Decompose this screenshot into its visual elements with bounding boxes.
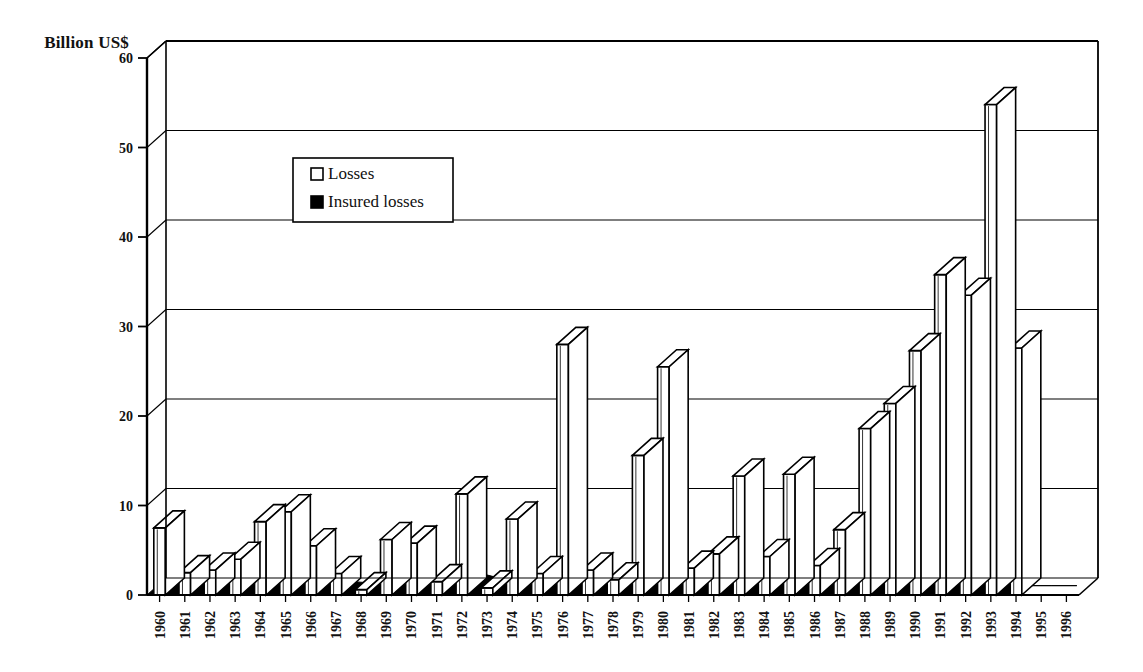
x-axis-tick-label: 1974: [505, 611, 520, 639]
x-axis-tick-label: 1979: [631, 611, 646, 639]
x-axis-tick-label: 1966: [304, 611, 319, 639]
x-axis-tick-label: 1962: [203, 611, 218, 639]
x-axis-tick-label: 1985: [782, 611, 797, 639]
x-axis-tick-label: 1984: [757, 611, 772, 639]
x-axis-tick-label: 1988: [858, 611, 873, 639]
x-axis-tick-label: 1989: [883, 611, 898, 639]
x-axis-tick-label: 1963: [228, 611, 243, 639]
x-axis-tick-label: 1980: [656, 611, 671, 639]
x-axis-tick-label: 1982: [707, 611, 722, 639]
chart-canvas: 6050403020100196019611962196319641965196…: [0, 0, 1143, 672]
x-axis-tick-label: 1969: [379, 611, 394, 639]
legend-item-label: Losses: [328, 164, 374, 183]
x-axis-tick-label: 1995: [1034, 611, 1049, 639]
insured-losses-swatch-icon: [311, 196, 323, 208]
bar-column: [154, 511, 185, 595]
x-axis-tick-label: 1971: [430, 611, 445, 639]
y-axis-tick-label: 20: [119, 409, 133, 424]
x-axis-tick-label: 1996: [1059, 611, 1074, 639]
legend-item-label: Insured losses: [328, 192, 424, 211]
x-axis-tick-label: 1994: [1009, 611, 1024, 639]
x-axis-tick-label: 1993: [984, 611, 999, 639]
legend-item[interactable]: Insured losses: [311, 192, 424, 211]
bar-column: [506, 502, 537, 595]
axis-title-layer: Billion US$: [44, 33, 129, 52]
y-axis-tick-label: 40: [119, 230, 133, 245]
y-axis-tick-label: 10: [119, 499, 133, 514]
y-axis-tick-label: 30: [119, 320, 133, 335]
chart-legend: LossesInsured losses: [293, 158, 453, 222]
x-axis-tick-label: 1976: [556, 611, 571, 639]
x-axis-tick-label: 1981: [682, 611, 697, 639]
x-axis-tick-label: 1978: [606, 611, 621, 639]
x-axis-tick-label: 1965: [279, 611, 294, 639]
x-axis-tick-label: 1967: [329, 611, 344, 639]
bar-column: [557, 327, 588, 595]
losses-swatch-icon: [311, 168, 323, 180]
x-axis-tick-label: 1975: [530, 611, 545, 639]
y-axis-tick-label: 60: [119, 51, 133, 66]
x-axis-tick-label: 1961: [178, 611, 193, 639]
y-axis-tick-label: 50: [119, 141, 133, 156]
x-axis-tick-label: 1960: [153, 611, 168, 639]
x-axis-tick-label: 1968: [354, 611, 369, 639]
x-axis-tick-label: 1964: [253, 611, 268, 639]
x-axis-tick-label: 1973: [480, 611, 495, 639]
x-axis-tick-label: 1991: [933, 611, 948, 639]
y-axis-tick-label: 0: [126, 588, 133, 603]
x-axis-tick-label: 1990: [908, 611, 923, 639]
x-axis-tick-label: 1986: [808, 611, 823, 639]
y-axis-title: Billion US$: [44, 33, 129, 52]
x-axis-tick-label: 1992: [959, 611, 974, 639]
losses-bar-chart: 6050403020100196019611962196319641965196…: [0, 0, 1143, 672]
x-axis-tick-label: 1977: [581, 611, 596, 639]
x-axis-tick-label: 1983: [732, 611, 747, 639]
x-axis-tick-label: 1970: [404, 611, 419, 639]
x-axis-tick-label: 1972: [455, 611, 470, 639]
x-axis-tick-label: 1987: [833, 611, 848, 639]
